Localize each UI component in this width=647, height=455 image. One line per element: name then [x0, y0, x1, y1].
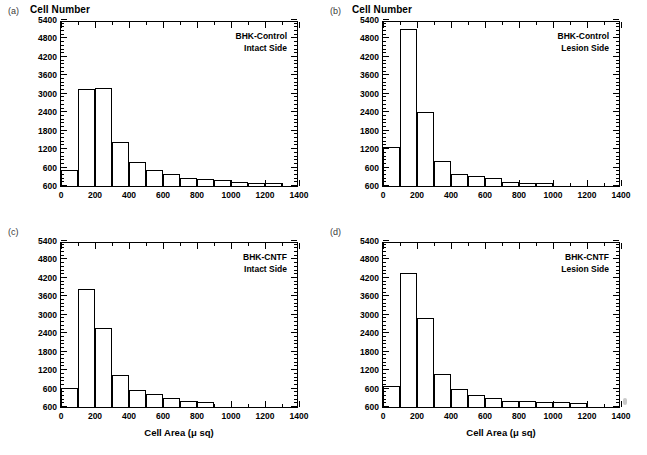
y-tick-label: 1200 [360, 144, 379, 154]
histogram-bar [553, 402, 570, 407]
y-major-tick [61, 240, 67, 241]
histogram-bar [163, 398, 180, 407]
panel-b-title: Cell Number [352, 4, 412, 15]
x-tick-label: 1400 [290, 190, 309, 200]
y-tick-label: 1200 [360, 365, 379, 375]
panel-b: (b) Cell Number BHK-Control Lesion Side … [322, 0, 645, 227]
histogram-bar [536, 183, 553, 186]
histogram-bar [265, 183, 282, 186]
x-tick-label: 1200 [256, 190, 275, 200]
y-tick-label: 600 [365, 402, 379, 412]
histogram-bar [485, 178, 502, 186]
y-tick-label: 1800 [38, 126, 57, 136]
y-tick-label: 4800 [38, 33, 57, 43]
histogram-bar [95, 88, 112, 186]
histogram-bar [400, 273, 417, 407]
bars-a [61, 22, 297, 186]
x-tick-label: 600 [156, 190, 170, 200]
histogram-bar [214, 180, 231, 186]
panel-a: (a) Cell Number BHK-Control Intact Side … [0, 0, 323, 227]
figure-root: (a) Cell Number BHK-Control Intact Side … [0, 0, 647, 455]
y-tick-label: 3600 [360, 291, 379, 301]
histogram-bar [197, 179, 214, 186]
panel-letter-a: (a) [8, 6, 19, 16]
histogram-bar [451, 174, 468, 186]
y-tick-label: 2400 [360, 107, 379, 117]
histogram-bar [95, 328, 112, 407]
x-major-tick [299, 401, 300, 407]
x-tick-label: 1000 [544, 411, 563, 421]
y-major-tick [383, 19, 389, 20]
x-tick-label: 400 [444, 411, 458, 421]
stray-speck [623, 398, 627, 405]
y-tick-label: 4800 [360, 254, 379, 264]
x-tick-label: 400 [122, 190, 136, 200]
x-tick-label: 1200 [578, 411, 597, 421]
y-tick-label: 5400 [38, 15, 57, 25]
x-major-tick-top [299, 22, 300, 28]
histogram-bar [112, 142, 129, 186]
y-tick-label: 3600 [38, 291, 57, 301]
x-tick-label: 0 [59, 190, 64, 200]
y-tick-label: 3000 [38, 89, 57, 99]
plot-area-d: BHK-CNTF Lesion Side 0200400600800100012… [382, 242, 620, 408]
y-tick-label: 1200 [38, 365, 57, 375]
y-tick-label: 1800 [360, 347, 379, 357]
histogram-bar [129, 390, 146, 407]
histogram-bar [570, 403, 587, 407]
y-tick-label: 4200 [360, 273, 379, 283]
x-tick-label: 800 [190, 411, 204, 421]
x-axis-title-left: Cell Area (μ sq) [60, 427, 298, 438]
y-tick-label: 600 [365, 163, 379, 173]
y-tick-label: 4800 [360, 33, 379, 43]
x-tick-label: 200 [88, 190, 102, 200]
histogram-bar [231, 182, 248, 186]
x-tick-label: 1400 [290, 411, 309, 421]
histogram-bar [434, 161, 451, 186]
x-major-tick-top [621, 243, 622, 249]
x-tick-label: 0 [381, 411, 386, 421]
bars-d [383, 243, 619, 407]
y-tick-label: 4200 [360, 52, 379, 62]
y-tick-label: 3000 [360, 89, 379, 99]
panel-letter-b: (b) [330, 6, 341, 16]
histogram-bar [61, 170, 78, 186]
x-tick-label: 1200 [256, 411, 275, 421]
y-major-tick-right [613, 19, 619, 20]
histogram-bar [383, 386, 400, 407]
y-tick-label: 600 [43, 402, 57, 412]
histogram-bar [129, 162, 146, 186]
panel-a-title: Cell Number [30, 4, 90, 15]
x-tick-label: 200 [410, 411, 424, 421]
panel-c: (c) BHK-CNTF Intact Side 020040060080010… [0, 225, 323, 452]
panel-letter-d: (d) [330, 227, 341, 237]
x-tick-label: 800 [512, 190, 526, 200]
y-tick-label: 5400 [360, 15, 379, 25]
y-tick-label: 4800 [38, 254, 57, 264]
x-major-tick [621, 401, 622, 407]
y-tick-label: 600 [43, 384, 57, 394]
x-tick-label: 600 [156, 411, 170, 421]
histogram-bar [502, 182, 519, 186]
histogram-bar [197, 402, 214, 407]
y-tick-label: 2400 [38, 328, 57, 338]
bars-b [383, 22, 619, 186]
y-tick-label: 3600 [360, 70, 379, 80]
x-tick-label: 400 [444, 190, 458, 200]
x-major-tick-top [621, 22, 622, 28]
histogram-bar [163, 174, 180, 186]
x-tick-label: 200 [88, 411, 102, 421]
x-axis-title-right: Cell Area (μ sq) [382, 427, 620, 438]
histogram-bar [468, 395, 485, 407]
panel-letter-c: (c) [8, 227, 19, 237]
histogram-bar [180, 401, 197, 407]
x-tick-label: 200 [410, 190, 424, 200]
y-major-tick [383, 240, 389, 241]
histogram-bar [502, 401, 519, 407]
y-tick-label: 3000 [360, 310, 379, 320]
x-tick-label: 0 [381, 190, 386, 200]
x-tick-label: 800 [190, 190, 204, 200]
x-tick-label: 1000 [544, 190, 563, 200]
histogram-bar [146, 170, 163, 186]
y-tick-label: 600 [365, 384, 379, 394]
